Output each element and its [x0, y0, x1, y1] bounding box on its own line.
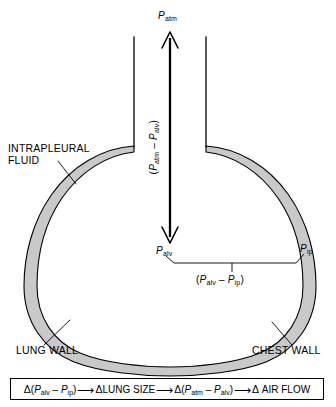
- label-p-ip: Pip: [300, 243, 313, 254]
- formula-arrow-2: ⟶: [155, 383, 174, 397]
- formula-arrow-1: ⟶: [76, 383, 95, 397]
- label-transairway-pressure: (Patm – Palv): [148, 120, 159, 174]
- formula-term1-b-base: P: [61, 384, 68, 395]
- transairway-open: (: [148, 171, 159, 175]
- formula-term3-b-sub: alv: [221, 389, 230, 396]
- transpulmonary-second-base: P: [228, 274, 235, 285]
- p-alv-sub: alv: [163, 250, 173, 257]
- summary-formula-box: Δ(Palv – Pip) ⟶ ΔLUNG SIZE ⟶ Δ(Patm – Pa…: [10, 378, 324, 400]
- p-atm-sub: atm: [165, 15, 177, 22]
- formula-term2: LUNG SIZE: [102, 384, 155, 395]
- label-chest-wall: CHEST WALL: [252, 345, 321, 357]
- p-ip-sub: ip: [307, 248, 313, 255]
- formula-term1-a-base: P: [34, 384, 41, 395]
- formula-term1-b-sub: ip: [68, 389, 73, 396]
- formula-delta-1: Δ: [24, 383, 31, 395]
- transpulmonary-first-sub: alv: [206, 279, 216, 286]
- formula-term4: AIR FLOW: [262, 384, 310, 395]
- transairway-minus: –: [148, 140, 159, 152]
- label-transpulmonary-pressure: (Palv – Pip): [196, 274, 244, 285]
- label-intrapleural-fluid: INTRAPLEURAL FLUID: [8, 143, 90, 167]
- p-alv-base: P: [156, 245, 163, 256]
- label-p-atm: Patm: [158, 10, 177, 21]
- formula-term3-a-sub: atm: [191, 389, 203, 396]
- formula-delta-4: Δ: [252, 383, 259, 395]
- transpulmonary-second-sub: ip: [235, 279, 241, 286]
- p-ip-base: P: [300, 243, 307, 254]
- transairway-second-sub: alv: [153, 124, 160, 134]
- transairway-first-sub: atm: [153, 152, 160, 164]
- p-atm-base: P: [158, 10, 165, 21]
- label-lung-wall: LUNG WALL: [16, 345, 78, 357]
- label-p-alv: Palv: [156, 245, 172, 256]
- formula-term3-minus: –: [203, 384, 214, 395]
- transpulmonary-minus: –: [216, 274, 228, 285]
- formula-term1-a-sub: alv: [41, 389, 50, 396]
- transairway-second-base: P: [148, 133, 159, 140]
- formula-arrow-3: ⟶: [233, 383, 252, 397]
- intrapleural-fluid-line-2: FLUID: [8, 155, 90, 167]
- transpulmonary-close: ): [240, 274, 244, 285]
- transairway-first-base: P: [148, 164, 159, 171]
- summary-formula: Δ(Palv – Pip) ⟶ ΔLUNG SIZE ⟶ Δ(Patm – Pa…: [24, 382, 310, 396]
- formula-term3-b-base: P: [214, 384, 221, 395]
- intrapleural-fluid-line-1: INTRAPLEURAL: [8, 143, 90, 155]
- formula-term1-minus: –: [50, 384, 61, 395]
- figure-canvas: Patm (Patm – Palv) Palv Pip (Palv – Pip)…: [0, 0, 336, 407]
- transpulmonary-bracket: [166, 254, 304, 263]
